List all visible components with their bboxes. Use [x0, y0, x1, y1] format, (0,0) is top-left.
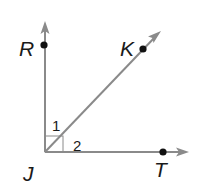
angle-diagram: R K T J 1 2	[0, 0, 197, 188]
label-t: T	[154, 159, 167, 180]
label-k: K	[120, 38, 134, 59]
angle-1-label: 1	[52, 118, 60, 133]
label-r: R	[19, 38, 34, 59]
point-t-dot	[159, 148, 166, 155]
diagram-canvas	[0, 0, 197, 188]
angle-2-label: 2	[73, 138, 81, 153]
point-r-dot	[40, 41, 47, 48]
ray-jk	[45, 36, 156, 152]
point-k-dot	[139, 45, 146, 52]
label-j: J	[23, 163, 34, 184]
